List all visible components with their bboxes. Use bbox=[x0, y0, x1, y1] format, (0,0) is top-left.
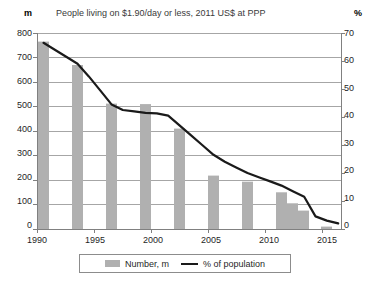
chart-canvas bbox=[0, 24, 371, 236]
plot-area: 800 700 600 500 400 300 200 100 0 70 60 … bbox=[0, 24, 371, 236]
bar-2005 bbox=[208, 176, 219, 229]
bar-2011 bbox=[276, 192, 287, 229]
legend-item-percent: % of population bbox=[181, 259, 265, 269]
x-tick-1990: 1990 bbox=[17, 236, 57, 245]
bar-2012 bbox=[287, 203, 298, 229]
line-swatch-icon bbox=[181, 263, 198, 265]
bar-2008 bbox=[242, 182, 253, 229]
page-title: People living on $1.90/day or less, 2011… bbox=[56, 6, 265, 20]
right-axis-unit: % bbox=[354, 6, 362, 20]
bar-1990 bbox=[38, 42, 49, 229]
bar-2013 bbox=[298, 211, 309, 229]
bar-2002 bbox=[174, 129, 185, 229]
x-tick-2010: 2010 bbox=[249, 236, 289, 245]
chart-header: m People living on $1.90/day or less, 20… bbox=[0, 6, 371, 22]
legend-label-number: Number, m bbox=[125, 259, 169, 269]
legend-label-percent: % of population bbox=[203, 259, 265, 269]
x-tick-2015: 2015 bbox=[307, 236, 347, 245]
bar-2015 bbox=[321, 227, 332, 229]
bar-swatch-icon bbox=[105, 260, 120, 267]
line-series bbox=[44, 43, 339, 224]
legend-item-number: Number, m bbox=[105, 259, 169, 269]
x-tick-2000: 2000 bbox=[133, 236, 173, 245]
bar-1993 bbox=[72, 65, 83, 229]
bar-1999 bbox=[140, 104, 151, 229]
x-tick-2005: 2005 bbox=[191, 236, 231, 245]
left-axis-unit: m bbox=[24, 6, 32, 20]
poverty-chart: m People living on $1.90/day or less, 20… bbox=[0, 0, 371, 286]
y-left-ticks bbox=[33, 34, 37, 230]
chart-legend: Number, m % of population bbox=[79, 254, 291, 273]
bar-1996 bbox=[106, 104, 117, 229]
x-tick-1995: 1995 bbox=[75, 236, 115, 245]
